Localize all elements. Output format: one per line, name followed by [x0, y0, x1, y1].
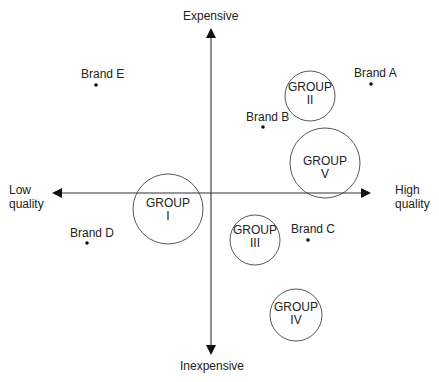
brand-e-dot: [94, 83, 98, 87]
perceptual-map: [0, 0, 439, 382]
group-iv-numeral: IV: [266, 314, 326, 327]
axis-label-quality-right: quality: [395, 197, 430, 211]
group-v-numeral: V: [290, 168, 360, 181]
brand-d-dot: [85, 241, 89, 245]
brand-a-label: Brand A: [354, 67, 397, 80]
axis-label-low-quality: Low quality: [9, 183, 44, 211]
group-i-label: GROUP I: [133, 197, 203, 223]
group-v-label: GROUP V: [290, 155, 360, 181]
brand-e-label: Brand E: [81, 68, 124, 81]
group-i-numeral: I: [133, 210, 203, 223]
group-iii-numeral: III: [225, 237, 285, 250]
brand-d-label: Brand D: [70, 227, 114, 240]
brand-b-label: Brand B: [246, 111, 289, 124]
axis-label-quality-left: quality: [9, 197, 44, 211]
group-iv-label: GROUP IV: [266, 301, 326, 327]
group-ii-numeral: II: [280, 94, 340, 107]
brand-a-dot: [369, 82, 373, 86]
group-iii-label: GROUP III: [225, 224, 285, 250]
axis-label-low: Low: [9, 183, 44, 197]
brand-c-label: Brand C: [291, 223, 335, 236]
group-ii-label: GROUP II: [280, 81, 340, 107]
axis-label-high: High: [395, 183, 430, 197]
axis-label-inexpensive: Inexpensive: [180, 360, 244, 373]
axis-label-expensive: Expensive: [183, 10, 238, 23]
brand-b-dot: [261, 125, 265, 129]
axis-label-high-quality: High quality: [395, 183, 430, 211]
brand-c-dot: [306, 238, 310, 242]
